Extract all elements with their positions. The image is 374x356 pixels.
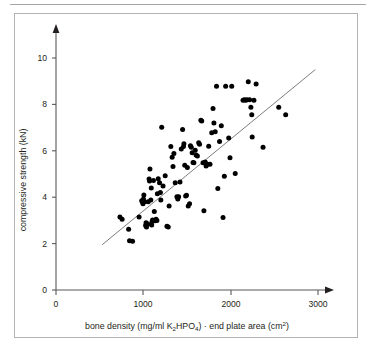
top-rule (10, 4, 366, 5)
figure-frame (14, 13, 358, 338)
